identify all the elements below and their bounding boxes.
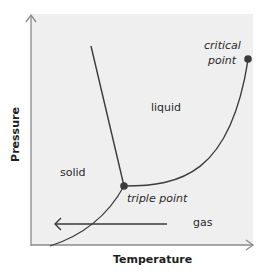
critical-point-label-line2: point bbox=[208, 54, 236, 67]
triple-point-label: triple point bbox=[127, 192, 187, 205]
region-liquid-label: liquid bbox=[151, 101, 181, 114]
y-axis-label: Pressure bbox=[9, 107, 22, 162]
region-solid-label: solid bbox=[60, 166, 86, 179]
critical-point-marker bbox=[244, 55, 252, 63]
critical-point-label-line1: critical bbox=[204, 39, 241, 52]
region-gas-label: gas bbox=[193, 216, 212, 229]
triple-point-marker bbox=[120, 182, 128, 190]
x-axis-label: Temperature bbox=[113, 253, 192, 266]
